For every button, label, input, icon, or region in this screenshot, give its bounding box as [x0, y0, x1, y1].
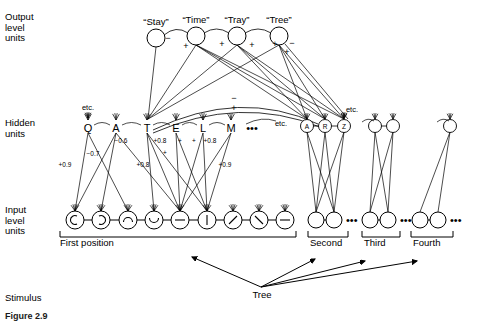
weight-label: + [163, 149, 167, 156]
weight-label: −0.6 [115, 137, 128, 144]
figure-caption: Figure 2.9 [5, 311, 48, 321]
etc-label-mid: etc. [275, 119, 287, 128]
position-brackets [60, 231, 453, 237]
output-unit[interactable] [147, 29, 165, 47]
input-feature-unit[interactable] [326, 212, 342, 228]
input-feature-unit[interactable] [145, 211, 163, 229]
hidden-unit-circle[interactable] [387, 120, 400, 133]
input-ellipsis: ••• [400, 214, 412, 226]
output-unit[interactable] [228, 27, 246, 45]
input-feature-unit[interactable] [308, 212, 324, 228]
output-unit[interactable] [187, 27, 205, 45]
input-feature-unit[interactable] [430, 212, 446, 228]
weight-label: +0.8 [137, 161, 150, 168]
position-label: First position [60, 237, 114, 248]
stimulus-arrow [192, 257, 261, 287]
connection-sign: + [219, 39, 224, 49]
position-label: Fourth [413, 237, 440, 248]
hidden-unit-letter[interactable]: A [112, 122, 120, 134]
hidden-ellipsis: ••• [246, 122, 258, 134]
etc-label-left: etc. [82, 103, 94, 112]
hidden-unit-letter: A [305, 123, 310, 130]
stimulus-arrows [192, 257, 417, 287]
connection-sign: + [272, 39, 277, 49]
arc-sign: − [231, 93, 236, 103]
output-unit-label: “Stay” [143, 16, 168, 27]
output-lateral-arcs [164, 29, 271, 35]
connection-sign: + [249, 40, 254, 50]
input-feature-unit[interactable] [92, 211, 110, 229]
hidden-unit-circle[interactable] [444, 120, 457, 133]
input-to-hidden-connections [75, 132, 450, 212]
hidden-unit-letter: R [323, 123, 328, 130]
hidden-unit-letter[interactable]: Q [84, 122, 93, 134]
input-feature-unit[interactable] [119, 211, 137, 229]
output-unit-label: “Tray” [225, 14, 250, 25]
hidden-unit-letter[interactable]: M [226, 122, 235, 134]
connection-sign: − [165, 33, 170, 43]
input-feature-unit[interactable] [380, 212, 396, 228]
input-feature-unit[interactable] [66, 211, 84, 229]
hidden-unit-letter[interactable]: L [200, 122, 206, 134]
arc-sign: + [231, 103, 236, 113]
weight-label: + [178, 137, 182, 144]
input-feature-unit[interactable] [412, 212, 428, 228]
weight-label: +0.9 [59, 161, 72, 168]
stimulus-arrow [261, 261, 365, 287]
connection-sign: − [289, 38, 294, 48]
weight-label: +0.8 [204, 137, 217, 144]
connection-sign: + [183, 41, 188, 51]
output-unit-label: “Time” [182, 14, 209, 25]
input-feature-unit[interactable] [362, 212, 378, 228]
weight-label: + [192, 137, 196, 144]
input-ellipsis: ••• [346, 214, 358, 226]
position-label: Second [310, 237, 342, 248]
input-units [66, 204, 446, 229]
hidden-unit-letter[interactable]: E [172, 122, 179, 134]
stimulus-word: Tree [252, 289, 271, 300]
hidden-unit-letter: Z [342, 123, 346, 130]
weight-label: −0.7 [87, 150, 100, 157]
weight-label: +0.9 [219, 161, 232, 168]
connection-sign: + [284, 47, 289, 57]
diagram-text-layer: “Stay”“Time”“Tray”“Tree”−++++−+etc.•••et… [59, 14, 462, 300]
hidden-unit-letter[interactable]: T [144, 122, 151, 134]
hidden-units: QATELMARZ [84, 112, 457, 134]
hidden-unit-circle[interactable] [369, 120, 382, 133]
stimulus-arrow [261, 261, 417, 287]
output-unit-label: “Tree” [266, 14, 292, 25]
position-label: Third [364, 237, 386, 248]
weight-label: +0.8 [154, 137, 167, 144]
input-ellipsis: ••• [450, 214, 462, 226]
etc-label-right: etc. [346, 105, 358, 114]
